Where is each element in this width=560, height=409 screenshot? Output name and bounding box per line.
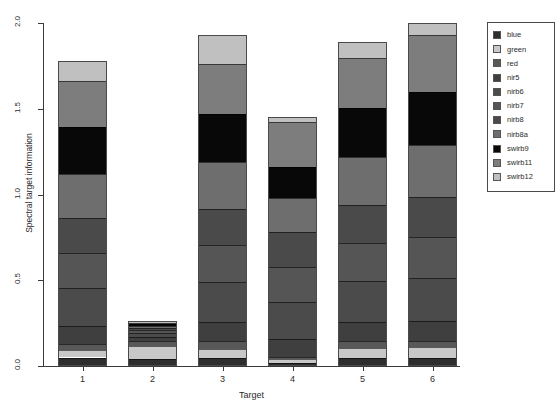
bar-segment-swirb11 [338,58,387,108]
bar-segment-nir5 [338,322,387,342]
y-tick-label: 0.0 [13,350,22,380]
bar-1 [58,61,107,366]
y-tick-mark [38,23,43,24]
legend-label-nirb8: nirb8 [507,116,524,124]
x-tick-mark [293,366,294,371]
bar-segment-red [408,341,457,348]
bar-segment-nirb8a [198,162,247,209]
y-tick-mark [38,366,43,367]
legend-swatch-nir5 [493,74,501,82]
y-tick-label: 1.0 [13,178,22,208]
bar-segment-nir5 [58,326,107,344]
bar-segment-blue [408,358,457,366]
bar-segment-red [268,357,317,359]
bar-segment-nirb7 [268,267,317,302]
y-tick-label-wrap: 1.5 [2,103,34,115]
legend-swatch-blue [493,31,501,39]
bar-5 [338,42,387,366]
legend-label-swirb11: swirb11 [507,159,532,167]
legend-item-swirb11: swirb11 [493,156,550,170]
bar-segment-swirb11 [128,323,177,324]
bar-segment-nirb6 [268,302,317,339]
bar-segment-swirb12 [338,42,387,58]
y-tick-mark [38,280,43,281]
y-tick-label-wrap: 1.0 [2,189,34,201]
legend-swatch-swirb11 [493,159,501,167]
bar-segment-nir5 [268,339,317,358]
bar-segment-nirb8 [198,209,247,246]
legend-label-green: green [507,46,526,54]
legend-swatch-swirb9 [493,145,501,153]
legend-label-nirb8a: nirb8a [507,131,528,139]
bar-segment-swirb9 [338,108,387,157]
x-tick-mark [363,366,364,371]
bar-segment-nirb8 [408,197,457,237]
x-tick-label: 6 [413,374,453,384]
bar-3 [198,35,247,366]
bar-segment-blue [338,358,387,366]
x-tick-mark [83,366,84,371]
y-tick-label-wrap: 0.5 [2,274,34,286]
legend-item-nirb8: nirb8 [493,113,550,127]
legend-label-nir5: nir5 [507,74,520,82]
bar-segment-swirb9 [408,92,457,145]
bar-segment-nirb8a [408,145,457,196]
legend-label-swirb12: swirb12 [507,173,533,181]
y-tick-label-wrap: 0.0 [2,360,34,372]
x-tick-label: 3 [203,374,243,384]
bar-segment-nirb8 [128,328,177,331]
bar-segment-nirb6 [198,282,247,322]
legend-swatch-nirb7 [493,102,501,110]
bar-segment-red [58,344,107,350]
bar-segment-swirb12 [198,35,247,64]
bar-segment-swirb12 [408,23,457,35]
bar-segment-blue [58,358,107,366]
legend-item-blue: blue [493,28,550,42]
x-tick-mark [153,366,154,371]
bar-segment-swirb11 [198,64,247,114]
legend-swatch-nirb6 [493,88,501,96]
legend: bluegreenrednir5nirb6nirb7nirb8nirb8aswi… [487,22,555,192]
bar-segment-nirb8a [58,174,107,219]
y-tick-label: 0.5 [13,264,22,294]
x-tick-mark [433,366,434,371]
y-tick-label-wrap: 2.0 [2,17,34,29]
y-tick-label: 2.0 [13,7,22,37]
bar-segment-swirb9 [58,127,107,173]
legend-swatch-green [493,45,501,53]
bar-segment-blue [128,359,177,366]
bar-segment-swirb12 [58,61,107,81]
bar-2 [128,321,177,366]
bar-segment-nirb7 [128,330,177,333]
x-axis-line [43,366,460,367]
bar-segment-swirb11 [58,81,107,127]
bar-segment-blue [198,358,247,366]
bar-segment-nirb8a [128,326,177,328]
legend-swatch-nirb8 [493,116,501,124]
legend-item-swirb9: swirb9 [493,142,550,156]
legend-item-nir5: nir5 [493,71,550,85]
x-tick-label: 5 [343,374,383,384]
bar-segment-nirb8a [338,157,387,205]
bar-segment-nirb7 [198,245,247,282]
bar-segment-red [198,341,247,348]
legend-swatch-nirb8a [493,130,501,138]
bar-segment-nir5 [198,322,247,341]
x-tick-label: 1 [63,374,103,384]
bar-segment-swirb12 [268,117,317,122]
x-tick-label: 4 [273,374,313,384]
bar-segment-red [128,341,177,346]
bar-segment-nir5 [128,337,177,341]
legend-label-red: red [507,60,518,68]
bar-segment-swirb9 [198,114,247,162]
bar-segment-green [338,348,387,357]
legend-item-nirb8a: nirb8a [493,127,550,141]
bar-segment-green [128,346,177,359]
bar-segment-swirb12 [128,321,177,322]
legend-swatch-swirb12 [493,173,501,181]
y-tick-label: 1.5 [13,92,22,122]
x-tick-mark [223,366,224,371]
bar-segment-blue [268,363,317,366]
bar-segment-nirb7 [408,237,457,278]
y-tick-mark [38,195,43,196]
